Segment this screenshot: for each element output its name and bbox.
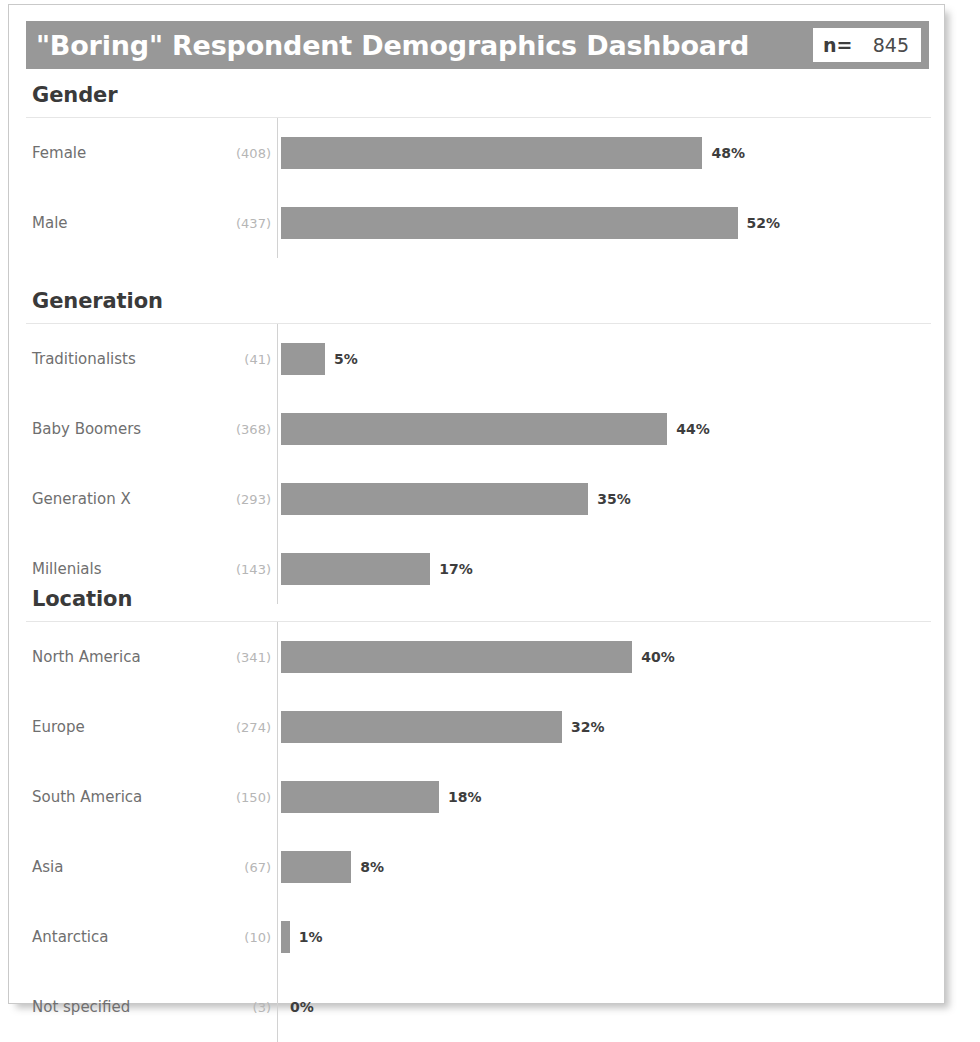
bar-track: 8% [281, 832, 931, 902]
bar-row: North America(341)40% [26, 622, 931, 692]
bar-category-label: Female [26, 144, 211, 162]
bar [281, 553, 430, 585]
bar-category-label: South America [26, 788, 211, 806]
bar-row: Europe(274)32% [26, 692, 931, 762]
bar-category-label: Asia [26, 858, 211, 876]
sample-size-label: n= [823, 34, 852, 56]
bar-value-label: 40% [641, 649, 675, 665]
bar-row: Female(408)48% [26, 118, 931, 188]
bar-value-label: 35% [597, 491, 631, 507]
bar-value-label: 1% [299, 929, 323, 945]
bar-category-label: Traditionalists [26, 350, 211, 368]
bar-track: 40% [281, 622, 931, 692]
bar-row: Baby Boomers(368)44% [26, 394, 931, 464]
chart-generation: Traditionalists(41)5%Baby Boomers(368)44… [26, 323, 931, 604]
bar-value-label: 5% [334, 351, 358, 367]
bar-value-label: 0% [290, 999, 314, 1015]
bar [281, 921, 290, 953]
bar-track: 48% [281, 118, 931, 188]
bar-track: 1% [281, 902, 931, 972]
bar-count-label: (67) [211, 860, 271, 875]
bar-count-label: (41) [211, 352, 271, 367]
bar [281, 207, 738, 239]
bar-category-label: Europe [26, 718, 211, 736]
bar-count-label: (150) [211, 790, 271, 805]
section-generation: Generation Traditionalists(41)5%Baby Boo… [26, 289, 931, 604]
bar [281, 711, 562, 743]
chart-location: North America(341)40%Europe(274)32%South… [26, 621, 931, 1042]
bar-count-label: (293) [211, 492, 271, 507]
bar-category-label: Baby Boomers [26, 420, 211, 438]
bar-track: 0% [281, 972, 931, 1042]
bar-count-label: (274) [211, 720, 271, 735]
page-title: "Boring" Respondent Demographics Dashboa… [36, 30, 749, 61]
bar-track: 52% [281, 188, 931, 258]
section-location: Location North America(341)40%Europe(274… [26, 587, 931, 1042]
bar-category-label: Not specified [26, 998, 211, 1016]
bar-category-label: Antarctica [26, 928, 211, 946]
bar-row: Not specified(3)0% [26, 972, 931, 1042]
bar [281, 137, 702, 169]
bar-category-label: Generation X [26, 490, 211, 508]
bar-row: Male(437)52% [26, 188, 931, 258]
bar-row: Asia(67)8% [26, 832, 931, 902]
bar [281, 641, 632, 673]
sample-size-value: 845 [873, 34, 909, 56]
chart-gender: Female(408)48%Male(437)52% [26, 117, 931, 258]
bar-track: 35% [281, 464, 931, 534]
bar [281, 483, 588, 515]
bar-count-label: (3) [211, 1000, 271, 1015]
bar-track: 5% [281, 324, 931, 394]
sample-size-box: n= 845 [813, 28, 921, 62]
bar-count-label: (408) [211, 146, 271, 161]
bar [281, 413, 667, 445]
bar [281, 343, 325, 375]
bar-category-label: Male [26, 214, 211, 232]
bar-count-label: (437) [211, 216, 271, 231]
bar-value-label: 18% [448, 789, 482, 805]
bar-count-label: (368) [211, 422, 271, 437]
bar [281, 851, 351, 883]
bar-category-label: North America [26, 648, 211, 666]
bar-count-label: (143) [211, 562, 271, 577]
bar [281, 781, 439, 813]
bar-track: 32% [281, 692, 931, 762]
bar-value-label: 32% [571, 719, 605, 735]
bar-category-label: Millenials [26, 560, 211, 578]
bar-value-label: 52% [747, 215, 781, 231]
bar-count-label: (10) [211, 930, 271, 945]
bar-value-label: 48% [711, 145, 745, 161]
bar-value-label: 44% [676, 421, 710, 437]
bar-count-label: (341) [211, 650, 271, 665]
bar-value-label: 17% [439, 561, 473, 577]
bar-track: 18% [281, 762, 931, 832]
section-title-generation: Generation [32, 289, 931, 313]
bar-value-label: 8% [360, 859, 384, 875]
section-title-location: Location [32, 587, 931, 611]
dashboard-card: "Boring" Respondent Demographics Dashboa… [8, 4, 945, 1004]
dashboard-header: "Boring" Respondent Demographics Dashboa… [26, 21, 929, 69]
section-title-gender: Gender [32, 83, 931, 107]
bar-track: 44% [281, 394, 931, 464]
bar-row: Traditionalists(41)5% [26, 324, 931, 394]
bar-row: Antarctica(10)1% [26, 902, 931, 972]
bar-row: Generation X(293)35% [26, 464, 931, 534]
section-gender: Gender Female(408)48%Male(437)52% [26, 83, 931, 258]
bar-row: South America(150)18% [26, 762, 931, 832]
